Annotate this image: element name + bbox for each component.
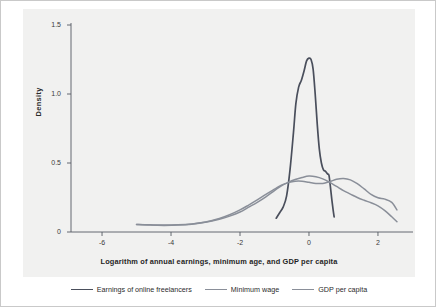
chart-legend: Earnings of online freelancersMinimum wa… xyxy=(1,285,436,294)
y-tick-label: 0.5 xyxy=(35,159,61,166)
legend-item-2: GDP per capita xyxy=(292,285,367,294)
x-tick-label: 0 xyxy=(297,239,321,246)
y-axis-title: Density xyxy=(34,103,43,117)
x-axis-title: Logarithm of annual earnings, minimum ag… xyxy=(1,257,436,266)
legend-swatch-line-icon xyxy=(71,289,93,290)
series-line-0 xyxy=(276,58,334,218)
x-tick-label: -6 xyxy=(90,239,114,246)
legend-item-0: Earnings of online freelancers xyxy=(71,285,192,294)
series-line-2 xyxy=(137,178,397,225)
legend-label: Earnings of online freelancers xyxy=(97,285,192,294)
legend-swatch-line-icon xyxy=(292,289,314,290)
axes xyxy=(67,23,413,236)
x-tick-label: 2 xyxy=(366,239,390,246)
legend-item-1: Minimum wage xyxy=(205,285,279,294)
legend-swatch-line-icon xyxy=(205,289,227,290)
legend-label: Minimum wage xyxy=(231,285,279,294)
x-tick-label: -2 xyxy=(228,239,252,246)
x-tick-label: -4 xyxy=(159,239,183,246)
y-tick-label: 1.0 xyxy=(35,90,61,97)
density-chart-figure: Density 00.51.01.5 -6-4-202 Logarithm of… xyxy=(0,0,436,307)
y-tick-label: 0 xyxy=(35,228,61,235)
legend-label: GDP per capita xyxy=(318,285,367,294)
series-lines xyxy=(137,58,397,225)
y-tick-label: 1.5 xyxy=(35,21,61,28)
